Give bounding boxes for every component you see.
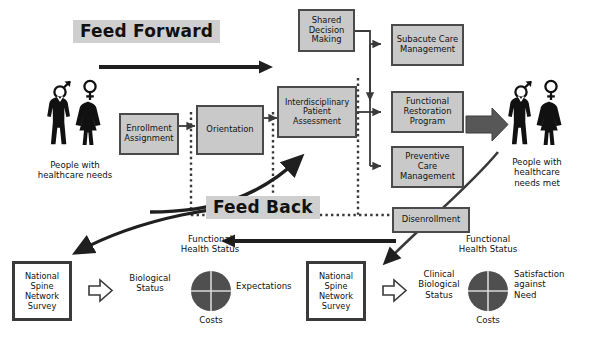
box-orientation[interactable]: Orientation <box>196 105 264 155</box>
outcome-right-satisfaction-label: Satisfaction against Need <box>514 269 594 300</box>
hollow-block-arrow-right-icon <box>89 280 112 301</box>
hollow-block-arrow-right-icon <box>383 280 406 301</box>
banner-feed-back: Feed Back <box>206 196 320 219</box>
left-people-icon <box>47 81 100 145</box>
box-interdisciplinary-patient-assessment[interactable]: Interdisciplinary Patient Assessment <box>277 86 357 138</box>
box-disenrollment[interactable]: Disenrollment <box>392 207 470 233</box>
block-arrow-right-icon <box>466 108 508 141</box>
female-figure-icon <box>76 102 101 146</box>
survey-box-left[interactable]: National Spine Network Survey <box>12 261 72 321</box>
caption-left-people: People with healthcare needs <box>27 160 123 181</box>
quadrant-disk-icon <box>468 271 508 311</box>
outcome-left-biological-status-label: Biological Status <box>114 273 186 294</box>
male-figure-icon <box>508 96 531 144</box>
box-functional-restoration-program[interactable]: Functional Restoration Program <box>391 91 464 133</box>
outcome-left-costs-label: Costs <box>185 315 237 325</box>
mars-symbol-icon <box>515 81 531 98</box>
outcome-right-heading: Functional Health Status <box>428 234 548 255</box>
box-preventive-care-management[interactable]: Preventive Care Management <box>391 146 464 188</box>
female-figure-icon <box>537 102 562 146</box>
banner-feed-forward: Feed Forward <box>73 20 220 43</box>
box-enrollment-assignment[interactable]: Enrollment Assignment <box>119 113 179 155</box>
box-shared-decision-making[interactable]: Shared Decision Making <box>298 9 355 52</box>
right-people-icon <box>508 81 561 145</box>
male-figure-icon <box>47 96 70 144</box>
outcome-right-clinical-biological-status-label: Clinical Biological Status <box>408 269 470 300</box>
box-subacute-care-management[interactable]: Subacute Care Management <box>391 24 464 66</box>
venus-symbol-icon <box>545 81 556 100</box>
feed-forward-arrow-icon <box>99 61 273 74</box>
survey-box-right[interactable]: National Spine Network Survey <box>306 261 366 321</box>
diagram-canvas: Feed Forward Feed Back Enrollment Assign… <box>0 0 598 349</box>
quadrant-disk-icon <box>191 271 231 311</box>
caption-right-people: People with healthcare needs met <box>494 157 580 188</box>
mars-symbol-icon <box>54 81 70 98</box>
outcome-left-heading: Functional Health Status <box>150 234 270 255</box>
venus-symbol-icon <box>84 81 95 100</box>
outcome-right-costs-label: Costs <box>462 315 514 325</box>
